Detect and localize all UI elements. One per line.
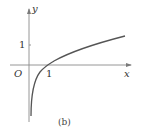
y-tick-label-1: 1 — [19, 40, 25, 50]
x-tick-label-1: 1 — [46, 69, 52, 79]
origin-label: O — [14, 69, 22, 79]
y-axis-label: y — [32, 4, 38, 14]
x-axis-label: x — [124, 69, 130, 79]
log-graph-figure: y x O 1 1 (b) — [0, 0, 141, 139]
figure-caption: (b) — [58, 118, 71, 127]
